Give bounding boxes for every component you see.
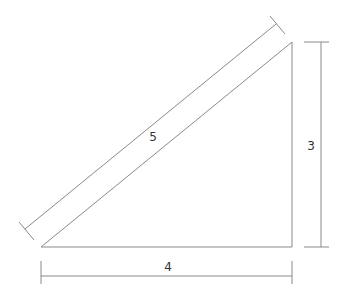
triangle — [41, 42, 292, 247]
triangle-diagram: 5 3 4 — [0, 0, 347, 301]
base-label: 4 — [164, 260, 172, 274]
hypotenuse-dimension — [19, 16, 285, 240]
hypotenuse-label: 5 — [149, 130, 157, 144]
height-label: 3 — [307, 139, 315, 153]
hypotenuse-tick-end — [270, 16, 285, 34]
hypotenuse-tick-start — [19, 222, 34, 240]
triangle-hypotenuse — [41, 42, 292, 247]
hypotenuse-dimension-line — [25, 24, 276, 229]
